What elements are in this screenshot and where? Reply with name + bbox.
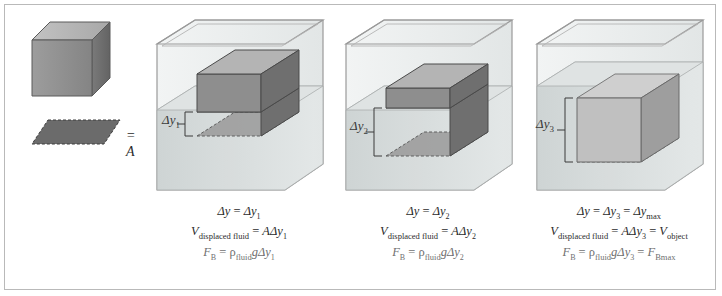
depth-label-2: Δy2 (350, 118, 368, 136)
tank-diagram-2 (338, 14, 518, 204)
tank-diagram-1 (149, 14, 329, 204)
equation-force-1: FB = ρfluidgΔy1 (144, 246, 334, 262)
legend-area-equals-label: = A (126, 128, 144, 160)
depth-label-3: Δy3 (536, 116, 554, 134)
panel-2: Δy2 Δy = Δy2 Vdisplaced fluid = AΔy2 FB … (334, 0, 522, 296)
equation-force-3: FB = ρfluidgΔy3 = FBmax (522, 246, 716, 262)
reference-cube-icon (28, 18, 114, 102)
panel-3: Δy3 Δy = Δy3 = Δymax Vdisplaced fluid = … (522, 0, 716, 296)
equation-volume-1: Vdisplaced fluid = AΔy1 (144, 225, 334, 241)
equation-force-2: FB = ρfluidgΔy2 (334, 246, 522, 262)
equation-depth-1: Δy = Δy1 (144, 205, 334, 221)
equation-depth-2: Δy = Δy2 (334, 205, 522, 221)
equation-volume-3: Vdisplaced fluid = AΔy3 = Vobject (522, 225, 716, 241)
depth-label-1: Δy1 (162, 112, 180, 130)
tank-diagram-3 (529, 14, 709, 204)
panel-1: Δy1 Δy = Δy1 Vdisplaced fluid = AΔy1 FB … (144, 0, 334, 296)
equation-volume-2: Vdisplaced fluid = AΔy2 (334, 225, 522, 241)
buoyancy-figure: = A (0, 0, 722, 296)
equation-depth-3: Δy = Δy3 = Δymax (522, 205, 716, 221)
legend-panel: = A (4, 0, 144, 296)
area-swatch-icon (30, 118, 122, 148)
